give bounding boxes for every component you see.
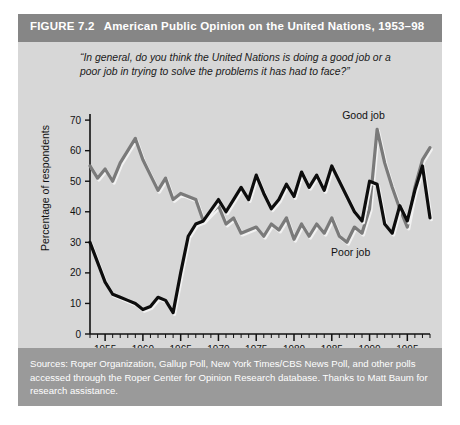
- figure-number: FIGURE 7.2: [30, 20, 95, 32]
- y-tick-label: 10: [70, 298, 82, 309]
- y-tick-label: 70: [70, 115, 82, 126]
- series-label-good-job: Good job: [342, 109, 385, 121]
- y-tick-label: 50: [70, 176, 82, 187]
- source-note: Sources: Roper Organization, Gallup Poll…: [30, 357, 430, 398]
- y-tick-label: 30: [70, 237, 82, 248]
- y-tick-label: 40: [70, 206, 82, 217]
- y-axis: 010203040506070: [70, 114, 90, 340]
- y-tick-label: 20: [70, 267, 82, 278]
- series-label-poor-job: Poor job: [331, 246, 370, 258]
- y-tick-label: 0: [75, 329, 81, 340]
- figure-header-title: FIGURE 7.2American Public Opinion on the…: [30, 20, 424, 32]
- y-tick-label: 60: [70, 145, 82, 156]
- plot-area: “In general, do you think the United Nat…: [18, 42, 442, 348]
- chart-series: [90, 129, 431, 314]
- line-chart: 010203040506070 195519601965197019751980…: [18, 42, 442, 348]
- series-line-poor-job: [90, 166, 430, 313]
- x-axis: 195519601965197019751980198519901995: [90, 334, 430, 348]
- figure-header-bar: FIGURE 7.2American Public Opinion on the…: [18, 14, 442, 42]
- source-bar: Sources: Roper Organization, Gallup Poll…: [18, 348, 442, 406]
- figure-container: FIGURE 7.2American Public Opinion on the…: [18, 14, 442, 406]
- figure-title: American Public Opinion on the United Na…: [104, 20, 425, 32]
